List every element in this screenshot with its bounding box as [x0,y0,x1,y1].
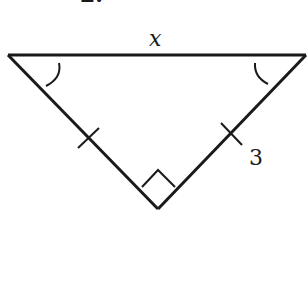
triangle-figure: x 3 [0,0,308,307]
left-angle-arc [46,63,59,86]
right-angle-arc [255,63,268,84]
right-angle-marker [142,170,175,187]
right-leg-side [158,55,306,209]
leg-length-label: 3 [249,145,263,170]
hypotenuse-label: x [149,26,162,51]
left-leg-side [8,55,158,209]
